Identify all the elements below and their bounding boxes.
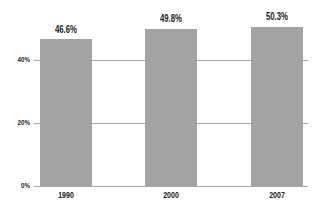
y-tick-label-40: 40% (7, 55, 30, 64)
value-label-2000: 49.8% (151, 13, 192, 24)
baseline-0 (34, 186, 308, 187)
bar-2000 (145, 29, 197, 186)
bar-2007 (251, 27, 303, 186)
x-label-2000: 2000 (151, 190, 192, 200)
y-tick-label-20: 20% (7, 118, 30, 127)
y-tick-label-0: 0% (7, 181, 30, 190)
value-label-1990: 46.6% (46, 24, 87, 35)
x-label-2007: 2007 (257, 190, 298, 200)
value-label-2007: 50.3% (257, 11, 298, 22)
bar-chart: 40% 20% 0% 46.6% 49.8% 50.3% 1990 2000 2… (0, 0, 324, 213)
bar-1990 (40, 39, 92, 186)
x-label-1990: 1990 (46, 190, 87, 200)
